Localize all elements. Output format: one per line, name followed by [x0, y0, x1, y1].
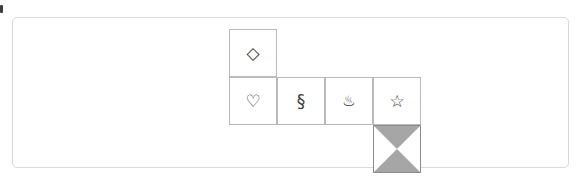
diamond-icon: ◇	[246, 44, 259, 61]
bowtie-fill-icon	[374, 126, 420, 172]
content-panel: ◇ ♡ § ♨ ☆	[12, 17, 569, 168]
grid-cell-diamond[interactable]: ◇	[229, 29, 277, 77]
white-star-icon: ☆	[389, 92, 404, 109]
grid-cell-hot-springs[interactable]: ♨	[325, 77, 373, 125]
symbol-grid-board: ◇ ♡ § ♨ ☆	[229, 29, 409, 169]
hot-springs-icon: ♨	[342, 93, 355, 108]
clipped-edge-marker	[0, 5, 3, 13]
screenshot-canvas: ◇ ♡ § ♨ ☆	[0, 0, 584, 185]
grid-cell-white-heart[interactable]: ♡	[229, 77, 277, 125]
grid-cell-section-sign[interactable]: §	[277, 77, 325, 125]
section-sign-icon: §	[297, 92, 306, 109]
grid-cell-white-star[interactable]: ☆	[373, 77, 421, 125]
grid-cell-bowtie-fill[interactable]	[373, 125, 421, 173]
white-heart-icon: ♡	[245, 92, 260, 109]
